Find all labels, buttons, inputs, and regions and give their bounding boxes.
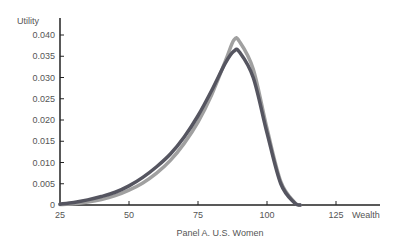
utility-curve <box>60 49 300 205</box>
y-tick-label: 0 <box>50 200 55 210</box>
x-tick-label: 25 <box>55 210 65 220</box>
y-tick-label: 0.040 <box>32 30 55 40</box>
y-tick-label: 0.005 <box>32 179 55 189</box>
utility-chart: Utility 00.0050.0100.0150.0200.0250.0300… <box>0 0 400 244</box>
x-tick-label: 100 <box>259 210 274 220</box>
chart-title: Panel A. U.S. Women <box>177 228 264 238</box>
y-tick-label: 0.020 <box>32 115 55 125</box>
y-axis-label: Utility <box>17 16 39 26</box>
y-tick-label: 0.015 <box>32 136 55 146</box>
y-tick-label: 0.010 <box>32 158 55 168</box>
x-tick-label: 75 <box>193 210 203 220</box>
curves <box>60 38 300 205</box>
y-tick-label: 0.035 <box>32 51 55 61</box>
x-tick-label: 50 <box>124 210 134 220</box>
y-tick-label: 0.025 <box>32 94 55 104</box>
x-tick-label: 125 <box>328 210 343 220</box>
y-tick-label: 0.030 <box>32 73 55 83</box>
x-axis-label: Wealth <box>352 210 380 220</box>
